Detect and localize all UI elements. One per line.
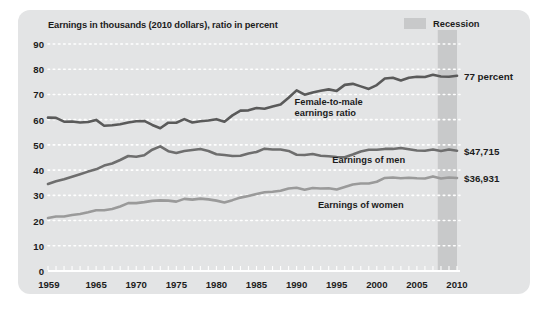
men-annotation: Earnings of men — [332, 155, 405, 166]
x-axis-tick-label: 1980 — [206, 279, 227, 290]
ratio-annotation: Female-to-male earnings ratio — [295, 97, 363, 118]
x-axis-tick-label: 1970 — [126, 279, 147, 290]
x-axis-tick-label: 1995 — [326, 279, 347, 290]
men-end-label: $47,715 — [464, 145, 499, 156]
x-axis-tick-label: 1959 — [38, 279, 59, 290]
x-axis-tick-label: 1990 — [286, 279, 307, 290]
x-axis-tick-label: 2000 — [366, 279, 387, 290]
chart-figure: Earnings in thousands (2010 dollars), ra… — [0, 0, 548, 309]
x-axis-tick-label: 2010 — [446, 279, 467, 290]
x-axis-tick-label: 1965 — [85, 279, 106, 290]
women-end-label: $36,931 — [464, 172, 499, 183]
x-axis-tick-label: 1975 — [166, 279, 187, 290]
women-annotation: Earnings of women — [318, 200, 404, 211]
ratio-end-label: 77 percent — [464, 70, 513, 81]
x-axis-tick-label: 2005 — [406, 279, 427, 290]
x-axis-tick-label: 1985 — [246, 279, 267, 290]
